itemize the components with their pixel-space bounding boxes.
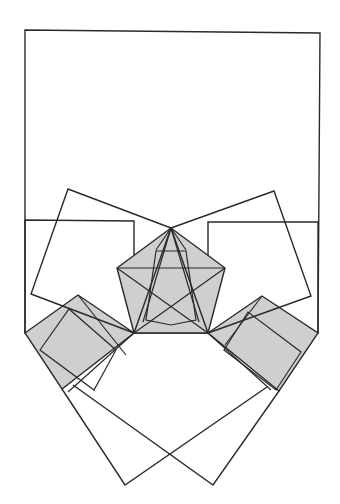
shaded-pentagon — [117, 228, 225, 333]
geometric-diagram — [0, 0, 340, 504]
lower-left-large-square — [62, 387, 267, 485]
right-shaded-square — [208, 296, 318, 391]
left-shaded-square — [25, 295, 134, 389]
